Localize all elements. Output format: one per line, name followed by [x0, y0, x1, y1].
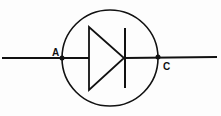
anode-junction-dot — [60, 56, 65, 61]
cathode-label: C — [163, 61, 170, 72]
cathode-junction-dot — [156, 55, 161, 60]
diode-triangle-icon — [89, 27, 124, 90]
diode-diagram: A C — [0, 0, 221, 116]
cathode-lead — [125, 57, 217, 58]
anode-label: A — [52, 47, 59, 58]
